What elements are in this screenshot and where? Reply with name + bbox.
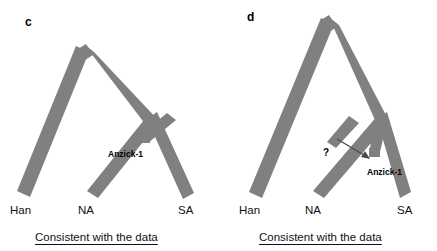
tip-label-sa-c: SA bbox=[178, 205, 193, 217]
tip-label-han-d: Han bbox=[239, 205, 260, 217]
tip-label-na-c: NA bbox=[78, 205, 94, 217]
annotation-unknown-lineage-d: ? bbox=[323, 148, 329, 158]
branch-han-d bbox=[249, 18, 334, 198]
node-label-anzick-1-c: Anzick-1 bbox=[108, 150, 143, 159]
caption-d: Consistent with the data bbox=[259, 232, 382, 244]
tree-branches-c bbox=[17, 44, 194, 199]
branch-han-c bbox=[17, 46, 89, 197]
panel-letter-c: c bbox=[25, 16, 32, 28]
branch-sa-d bbox=[377, 112, 411, 198]
tip-label-sa-d: SA bbox=[397, 205, 412, 217]
branch-anzick-1-foot-c bbox=[139, 134, 150, 143]
panel-letter-d: d bbox=[247, 11, 254, 23]
tip-label-han-c: Han bbox=[10, 205, 31, 217]
branch-anzick-1-foot-d bbox=[369, 148, 380, 157]
caption-c: Consistent with the data bbox=[35, 232, 158, 244]
figure-panels-c-d: c Han NA SA Anzick-1 Consistent with the… bbox=[0, 0, 437, 251]
panel-d: d ? Han NA SA Anzick-1 Consistent with t… bbox=[219, 0, 437, 251]
node-label-anzick-1-d: Anzick-1 bbox=[367, 168, 402, 177]
panel-c: c Han NA SA Anzick-1 Consistent with the… bbox=[0, 0, 219, 251]
tip-label-na-d: NA bbox=[305, 205, 321, 217]
branch-amerindian-ancestor-d bbox=[329, 17, 389, 129]
